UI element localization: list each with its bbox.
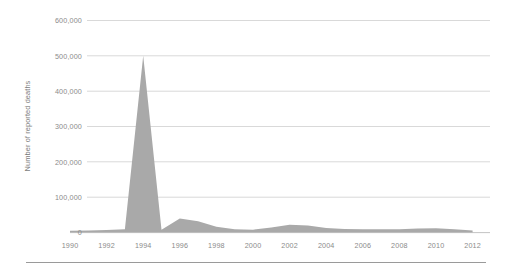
y-tick-label: 0 bbox=[78, 228, 82, 237]
x-tick-label: 1990 bbox=[62, 241, 79, 250]
x-tick-label: 2010 bbox=[428, 241, 445, 250]
x-tick-labels: 1990 1992 1994 1996 1998 2000 2002 2004 … bbox=[62, 241, 481, 250]
x-tick-label: 1994 bbox=[135, 241, 152, 250]
x-tick-label: 2002 bbox=[281, 241, 298, 250]
x-tick-label: 2012 bbox=[464, 241, 481, 250]
y-tick-label: 500,000 bbox=[55, 52, 82, 61]
x-tick-label: 2006 bbox=[355, 241, 372, 250]
y-axis-title: Number of reported deaths bbox=[23, 80, 32, 171]
y-tick-labels: 600,000 500,000 400,000 300,000 200,000 … bbox=[55, 16, 82, 237]
area-chart: 600,000 500,000 400,000 300,000 200,000 … bbox=[0, 0, 512, 271]
x-tick-label: 2008 bbox=[391, 241, 408, 250]
y-tick-label: 200,000 bbox=[55, 158, 82, 167]
series-reported-deaths bbox=[70, 56, 473, 233]
x-tick-label: 2004 bbox=[318, 241, 335, 250]
x-tick-label: 1996 bbox=[172, 241, 189, 250]
x-tick-label: 1998 bbox=[208, 241, 225, 250]
area-path bbox=[70, 56, 473, 233]
y-tick-label: 600,000 bbox=[55, 16, 82, 25]
y-tick-label: 100,000 bbox=[55, 193, 82, 202]
chart-figure: 600,000 500,000 400,000 300,000 200,000 … bbox=[0, 0, 512, 271]
y-tick-label: 300,000 bbox=[55, 122, 82, 131]
y-tick-label: 400,000 bbox=[55, 87, 82, 96]
x-tick-label: 2000 bbox=[245, 241, 262, 250]
x-tick-label: 1992 bbox=[98, 241, 115, 250]
